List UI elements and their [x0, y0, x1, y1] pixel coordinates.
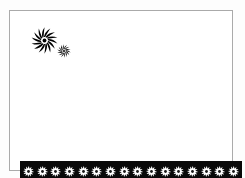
rosette-center: [232, 170, 235, 173]
rosette-flower-icon: [91, 166, 102, 177]
rosette-flower-icon: [37, 166, 48, 177]
document-canvas: [0, 0, 245, 178]
rosette-center: [123, 170, 126, 173]
rosette-center: [164, 170, 167, 173]
pinwheel-hub: [43, 39, 47, 43]
rosette-flower-icon: [187, 166, 198, 177]
rosette-center: [177, 170, 180, 173]
rosette-flower-icon: [50, 166, 61, 177]
rosette-flower-icon: [78, 166, 89, 177]
rosette-center: [191, 170, 194, 173]
rosette-flower-icon: [105, 166, 116, 177]
rosette-center: [218, 170, 221, 173]
rosette-flower-icon: [201, 166, 212, 177]
rosette-center: [109, 170, 112, 173]
rosette-flower-icon: [228, 166, 239, 177]
rosette-center: [150, 170, 153, 173]
rosette-center: [205, 170, 208, 173]
rosette-center: [95, 170, 98, 173]
rosette-center: [54, 170, 57, 173]
rosette-center: [27, 170, 30, 173]
rosette-flower-icon: [173, 166, 184, 177]
pinwheel-hub: [63, 50, 65, 52]
rosette-flower-icon: [64, 166, 75, 177]
rosette-center: [136, 170, 139, 173]
rosette-flower-icon: [146, 166, 157, 177]
pinwheel-flower-icon: [31, 27, 58, 54]
pinwheel-flower-icon: [57, 44, 71, 58]
rosette-flower-icon: [23, 166, 34, 177]
ornamental-border-band: [20, 161, 242, 178]
rosette-flower-icon: [132, 166, 143, 177]
rosette-center: [41, 170, 44, 173]
page-frame: [9, 10, 233, 171]
rosette-center: [68, 170, 71, 173]
rosette-flower-icon: [214, 166, 225, 177]
rosette-flower-icon: [119, 166, 130, 177]
rosette-flower-icon: [160, 166, 171, 177]
rosette-center: [82, 170, 85, 173]
